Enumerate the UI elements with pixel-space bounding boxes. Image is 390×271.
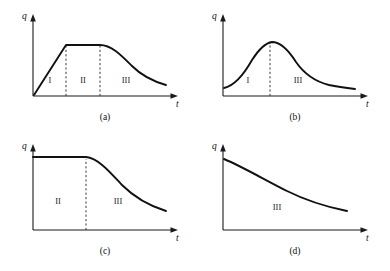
region-label-iii: III (122, 75, 131, 85)
region-label-ii: II (80, 75, 86, 85)
data-curve (34, 45, 166, 95)
region-label-i: I (247, 75, 250, 85)
panel-d-plot: q t III (d) (195, 132, 390, 267)
x-axis-label: t (176, 233, 179, 243)
y-axis-label: q (212, 11, 217, 21)
x-axis-label: t (366, 233, 369, 243)
y-axis-arrow-icon (30, 144, 36, 152)
data-curve (33, 157, 166, 211)
y-axis-arrow-icon (30, 14, 36, 22)
panel-a: q t I II III (a) (0, 0, 195, 135)
panel-d: q t III (d) (195, 132, 390, 267)
x-axis-arrow-icon (361, 93, 369, 99)
region-label-iii: III (294, 75, 303, 85)
region-label-iii: III (273, 202, 282, 212)
y-axis-arrow-icon (220, 144, 226, 152)
panel-caption: (a) (100, 112, 111, 123)
data-curve (224, 159, 347, 211)
panel-b: q t I III (b) (195, 0, 390, 135)
y-axis-label: q (22, 11, 27, 21)
panel-caption: (b) (289, 112, 300, 123)
multi-panel-figure: q t I II III (a) q t I III (b) (0, 0, 390, 271)
x-axis-arrow-icon (171, 93, 179, 99)
y-axis-label: q (212, 141, 217, 151)
region-label-ii: II (55, 196, 61, 206)
panel-caption: (d) (289, 246, 300, 257)
x-axis-arrow-icon (361, 227, 369, 233)
region-label-i: I (49, 75, 52, 85)
panel-a-plot: q t I II III (a) (0, 0, 195, 135)
panel-caption: (c) (100, 246, 111, 257)
panel-b-plot: q t I III (b) (195, 0, 390, 135)
panel-c: q t II III (c) (0, 132, 195, 267)
data-curve (224, 42, 355, 89)
y-axis-label: q (22, 141, 27, 151)
x-axis-arrow-icon (171, 227, 179, 233)
panel-c-plot: q t II III (c) (0, 132, 195, 267)
y-axis-arrow-icon (220, 14, 226, 22)
x-axis-label: t (176, 99, 179, 109)
x-axis-label: t (366, 99, 369, 109)
region-label-iii: III (114, 196, 123, 206)
